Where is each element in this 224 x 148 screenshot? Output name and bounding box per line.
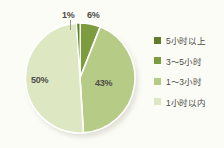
legend-label-3-5h: 3～5小时: [166, 55, 201, 67]
pie-chart-figure: 1% 6% 43% 50% 5小时以上 3～5小时 1～3小时 1小时以内: [0, 0, 224, 148]
legend-item-under-1h[interactable]: 1小时以内: [154, 92, 224, 113]
legend-swatch-icon: [154, 37, 161, 44]
legend-item-5h-plus[interactable]: 5小时以上: [154, 30, 224, 51]
legend-label-5h-plus: 5小时以上: [166, 34, 206, 46]
legend-item-3-5h[interactable]: 3～5小时: [154, 51, 224, 72]
legend-swatch-icon: [154, 98, 161, 105]
pie-label-1-3h: 43%: [95, 78, 112, 88]
legend-swatch-icon: [154, 78, 161, 85]
leader-line-5h-plus: [70, 20, 71, 30]
pie-label-3-5h: 6%: [87, 10, 100, 20]
pie-chart-plot-area: 1% 6% 43% 50%: [0, 0, 150, 148]
chart-legend: 5小时以上 3～5小时 1～3小时 1小时以内: [154, 30, 224, 112]
legend-label-under-1h: 1小时以内: [166, 96, 206, 108]
pie-label-5h-plus: 1%: [62, 10, 75, 20]
legend-swatch-icon: [154, 57, 161, 64]
legend-label-1-3h: 1～3小时: [166, 75, 201, 87]
legend-item-1-3h[interactable]: 1～3小时: [154, 71, 224, 92]
pie-label-under-1h: 50%: [31, 75, 48, 85]
